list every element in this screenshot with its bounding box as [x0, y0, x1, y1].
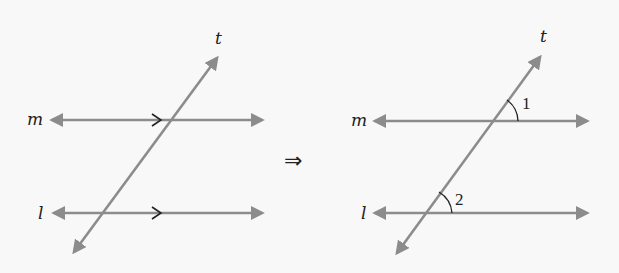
label-m-left: m: [27, 109, 43, 129]
right-diagram: 1 2 t m l: [351, 26, 587, 253]
label-t-right: t: [540, 26, 547, 46]
label-m-right: m: [351, 110, 367, 130]
angle-arc-1: [507, 100, 518, 121]
implies-arrow-icon: ⇒: [284, 148, 302, 173]
transversal-t-right: [397, 57, 540, 253]
label-l-left: l: [38, 203, 43, 223]
label-t-left: t: [215, 28, 222, 48]
parallel-lines-figure: t m l ⇒ 1 2 t m l: [0, 0, 619, 273]
angle-label-2: 2: [455, 190, 464, 209]
angle-label-1: 1: [522, 94, 531, 113]
left-diagram: t m l: [27, 28, 262, 252]
transversal-t-left: [74, 58, 217, 252]
angle-arc-2: [439, 192, 452, 213]
label-l-right: l: [361, 203, 366, 223]
